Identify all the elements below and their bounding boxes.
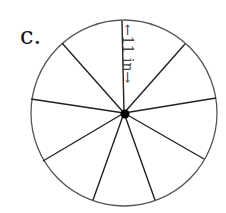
spoke [62, 43, 124, 113]
spoke [124, 113, 204, 159]
spoke [124, 98, 216, 113]
spoke [31, 99, 124, 113]
center-dot [121, 110, 130, 119]
circle-diagram: ←11 in→ [0, 0, 226, 213]
radius-dimension-label: ←11 in→ [120, 24, 136, 83]
spoke [43, 113, 124, 161]
spoke [124, 113, 155, 200]
spoke [93, 113, 124, 200]
